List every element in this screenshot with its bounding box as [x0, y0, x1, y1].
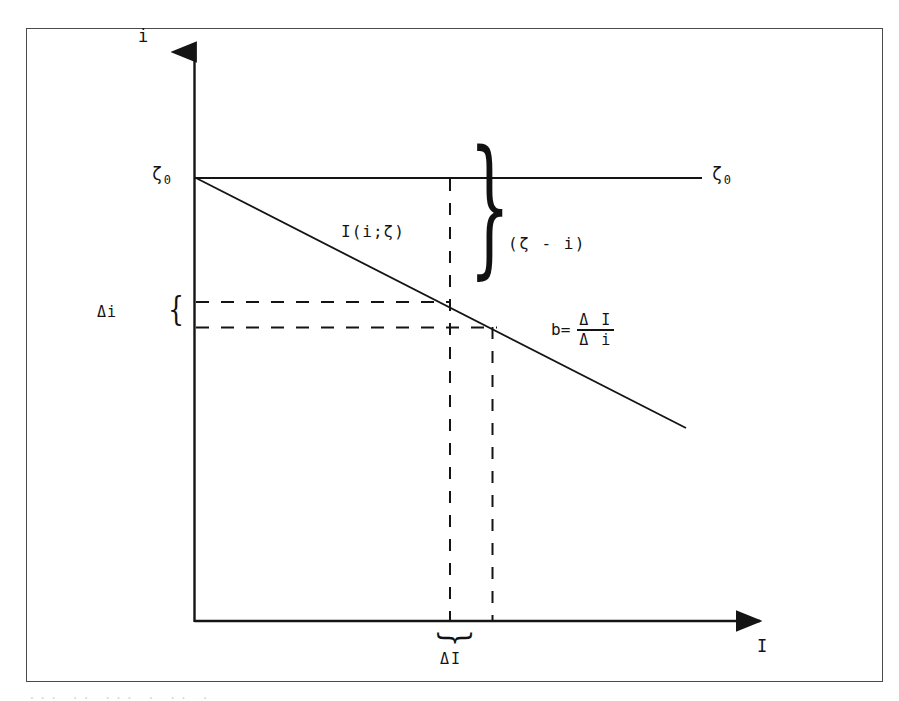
- delta-I-brace: }: [437, 629, 475, 647]
- zeta0-left-symbol: ζ: [152, 164, 163, 184]
- zeta-minus-i-brace: }: [469, 132, 510, 282]
- slope-numerator: Δ I: [577, 312, 614, 329]
- zeta-minus-i-label: (ζ - i): [508, 234, 586, 253]
- caption-remnant: ··· ·· ··· · ·· ·: [28, 690, 212, 701]
- zeta0-right-label: ζ0: [712, 164, 731, 187]
- y-axis-label: i: [138, 26, 149, 46]
- slope-fraction: Δ I Δ i: [577, 312, 614, 348]
- investment-schedule-line: [196, 178, 686, 428]
- delta-i-label: Δi: [97, 303, 117, 321]
- delta-i-brace: }: [168, 292, 184, 326]
- delta-I-label: ΔI: [440, 650, 462, 668]
- zeta0-left-subscript: 0: [163, 173, 172, 187]
- figure-page: i I ζ0 ζ0 I(i;ζ) } (ζ - i) } Δi } ΔI b= …: [0, 0, 899, 701]
- zeta0-right-subscript: 0: [723, 173, 732, 187]
- investment-schedule-label: I(i;ζ): [341, 222, 405, 241]
- zeta0-left-label: ζ0: [152, 164, 171, 187]
- slope-denominator: Δ i: [577, 331, 614, 348]
- zeta0-right-symbol: ζ: [712, 164, 723, 184]
- slope-variable: b=: [551, 320, 570, 339]
- plot-canvas: [0, 0, 899, 701]
- x-axis-label: I: [757, 636, 768, 656]
- slope-formula: b= Δ I Δ i: [551, 312, 614, 348]
